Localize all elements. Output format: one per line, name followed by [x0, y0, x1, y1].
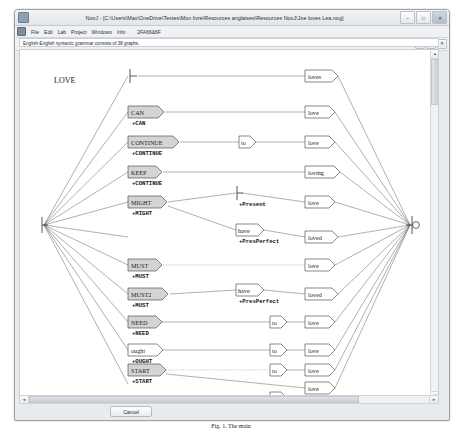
scroll-up-arrow-icon[interactable]: ▲ — [431, 50, 439, 59]
mid-node-have-1-label: have — [238, 227, 250, 234]
right-node-9-label: love — [308, 319, 319, 326]
right-node-4-label: loving — [308, 169, 324, 176]
left-node-can-feature: +CAN — [132, 120, 145, 127]
graph-title: LOVE — [54, 76, 75, 85]
mid-node-present[interactable]: +Present — [237, 186, 266, 208]
left-node-need-label: NEED — [131, 319, 148, 326]
left-node-continue-label: CONTINUE — [131, 139, 163, 146]
menu-bar: File Edit Lab Project Windows Info 2FA66… — [15, 26, 449, 38]
right-node-8-label: loved — [308, 291, 323, 298]
left-node-must2-feature: +MUST — [132, 302, 149, 309]
menu-item-edit[interactable]: Edit — [44, 29, 53, 35]
left-node-start-feature: +START — [132, 378, 153, 385]
minimize-icon: – — [406, 15, 409, 20]
right-node-12[interactable]: love — [305, 382, 335, 394]
mid-node-to-1[interactable]: to — [239, 136, 256, 148]
nooj-application-window: NooJ - [C:\Users\Max\OneDrive\Textes\Mon… — [14, 9, 450, 421]
left-node-empty[interactable] — [130, 69, 137, 83]
left-node-keep-feature: +CONTINUE — [132, 180, 163, 187]
scroll-right-arrow-icon[interactable]: ► — [429, 396, 438, 403]
left-node-might[interactable]: MIGHT +MIGHT — [128, 196, 167, 217]
graph-canvas[interactable]: .edge { stroke: #6e6e6e; stroke-width: 0… — [19, 49, 439, 401]
left-node-need-feature: +NEED — [132, 330, 149, 337]
right-node-12-label: love — [308, 385, 319, 392]
left-node-start-label: START — [131, 367, 150, 374]
maximize-icon: □ — [422, 15, 425, 20]
canvas-vertical-scrollbar[interactable]: ▲ ▼ — [430, 50, 438, 400]
mid-node-have-2-label: have — [238, 287, 250, 294]
left-node-continue[interactable]: CONTINUE +CONTINUE — [128, 136, 179, 157]
right-node-5[interactable]: love — [305, 196, 335, 208]
scroll-left-arrow-icon[interactable]: ◄ — [20, 396, 29, 403]
right-node-3[interactable]: love — [305, 136, 335, 148]
mid-node-have-1-feature: +PresPerfect — [239, 238, 279, 245]
figure-caption: Fig. 1. The main — [0, 423, 462, 429]
left-node-keep[interactable]: KEEP +CONTINUE — [128, 166, 163, 187]
right-node-10-label: love — [308, 347, 319, 354]
mid-node-have-1[interactable]: have +PresPerfect — [236, 224, 279, 245]
left-node-start[interactable]: START +START — [128, 364, 166, 385]
mid-node-present-feature: +Present — [239, 201, 266, 208]
left-node-must2-label: MUST2 — [131, 291, 151, 298]
menu-item-windows[interactable]: Windows — [92, 29, 112, 35]
menu-item-extra[interactable]: 2FA66&6F — [137, 29, 161, 35]
edge-layer — [44, 76, 410, 400]
horizontal-scroll-thumb[interactable] — [29, 396, 359, 403]
right-node-3-label: love — [308, 139, 319, 146]
menu-item-lab[interactable]: Lab — [58, 29, 66, 35]
grammar-status-text: English-English syntactic grammar consis… — [19, 38, 439, 47]
title-bar: NooJ - [C:\Users\Max\OneDrive\Textes\Mon… — [15, 10, 449, 26]
mid-node-to-3[interactable]: to — [270, 344, 287, 356]
menu-item-info[interactable]: Info — [117, 29, 125, 35]
mid-node-have-2-feature: +PresPerfect — [239, 298, 279, 305]
right-node-11-label: love — [308, 367, 319, 374]
horizontal-scrollbar[interactable]: ◄ ► — [19, 395, 439, 404]
left-node-can[interactable]: CAN +CAN — [128, 106, 164, 127]
close-button[interactable]: ✕ — [432, 11, 447, 24]
right-node-10[interactable]: love — [305, 344, 335, 356]
menu-item-file[interactable]: File — [31, 29, 39, 35]
window-title: NooJ - [C:\Users\Max\OneDrive\Textes\Mon… — [29, 15, 400, 21]
mid-node-to-2[interactable]: to — [270, 316, 287, 328]
screenshot-root: NooJ - [C:\Users\Max\OneDrive\Textes\Mon… — [0, 0, 462, 435]
graph-svg: .edge { stroke: #6e6e6e; stroke-width: 0… — [20, 50, 438, 400]
mid-node-to-3-label: to — [272, 347, 277, 354]
left-node-ought-label: ought — [131, 347, 145, 354]
mid-node-to-4[interactable]: to — [270, 364, 287, 376]
minimize-button[interactable]: – — [400, 11, 415, 24]
left-node-must[interactable]: MUST +MUST — [128, 259, 162, 280]
nooj-app-icon — [18, 12, 29, 23]
right-node-11[interactable]: love — [305, 364, 335, 376]
right-node-9[interactable]: love — [305, 316, 335, 328]
mid-node-to-1-label: to — [241, 139, 246, 146]
window-controls: – □ ✕ — [400, 11, 447, 24]
right-node-1[interactable]: loves — [305, 70, 338, 82]
right-node-1-label: loves — [308, 73, 322, 80]
vertical-scroll-thumb[interactable] — [431, 59, 439, 105]
mid-node-to-2-label: to — [272, 319, 277, 326]
left-node-continue-feature: +CONTINUE — [132, 150, 163, 157]
left-node-must-label: MUST — [131, 262, 148, 269]
left-node-might-label: MIGHT — [131, 199, 151, 206]
right-node-6[interactable]: loved — [305, 231, 338, 243]
mid-node-to-4-label: to — [272, 367, 277, 374]
left-node-keep-label: KEEP — [131, 169, 147, 176]
final-state-marker[interactable] — [406, 216, 419, 234]
right-node-7[interactable]: love — [305, 259, 335, 271]
maximize-button[interactable]: □ — [416, 11, 431, 24]
document-icon — [17, 27, 26, 36]
left-node-might-feature: +MIGHT — [132, 210, 153, 217]
right-node-2[interactable]: love — [305, 106, 335, 118]
right-node-8[interactable]: loved — [305, 288, 338, 300]
close-icon: ✕ — [438, 15, 442, 20]
right-node-4[interactable]: loving — [305, 166, 340, 178]
left-node-can-label: CAN — [131, 109, 145, 116]
left-node-must-feature: +MUST — [132, 273, 149, 280]
right-node-2-label: love — [308, 109, 319, 116]
cancel-button[interactable]: Cancel — [110, 406, 152, 417]
left-node-need[interactable]: NEED +NEED — [128, 316, 162, 337]
left-node-ought[interactable]: ought +OUGHT — [128, 344, 163, 365]
menu-item-project[interactable]: Project — [71, 29, 87, 35]
left-node-must2[interactable]: MUST2 +MUST — [128, 288, 168, 309]
mid-node-have-2[interactable]: have +PresPerfect — [236, 284, 279, 305]
